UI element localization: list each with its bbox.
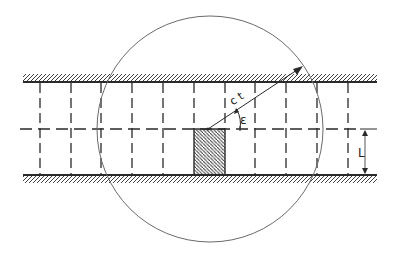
shaded-cell	[194, 129, 225, 175]
wave-propagation-diagram: c t ε L	[0, 0, 397, 257]
bottom-wall	[23, 175, 377, 183]
dimension-label: L	[358, 146, 365, 160]
top-wall	[23, 74, 377, 82]
angle-label: ε	[240, 113, 247, 127]
